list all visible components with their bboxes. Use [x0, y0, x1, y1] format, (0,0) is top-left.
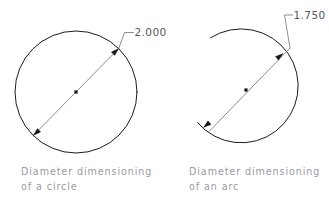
circle-caption-line-1: Diameter dimensioning — [21, 166, 152, 177]
arc-figure: 1.750 Diameter dimensioning of an arc — [189, 9, 326, 193]
arc-leader-line — [285, 15, 293, 48]
arc-outline — [198, 29, 299, 143]
circle-caption-line-2: of a circle — [21, 181, 78, 192]
drawing-canvas: 2.000 Diameter dimensioning of a circle … — [0, 0, 329, 205]
arc-caption-line-1: Diameter dimensioning — [189, 166, 320, 177]
arc-diameter-dimension-line — [210, 48, 291, 131]
circle-dimension-value: 2.000 — [135, 26, 167, 38]
circle-leader-line — [119, 33, 134, 49]
arc-arrowhead-lower-left — [204, 121, 212, 128]
circle-figure: 2.000 Diameter dimensioning of a circle — [15, 26, 167, 192]
arc-dimension-value: 1.750 — [294, 9, 326, 21]
technical-drawing-svg: 2.000 Diameter dimensioning of a circle … — [0, 0, 329, 205]
arc-center-mark — [244, 88, 247, 91]
circle-center-mark — [74, 90, 77, 93]
arc-caption-line-2: of an arc — [189, 181, 239, 192]
